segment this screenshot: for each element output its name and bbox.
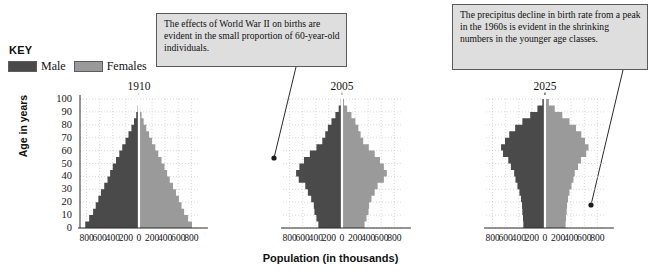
y-axis-tick-40: 40 bbox=[22, 171, 72, 181]
y-axis-tick-20: 20 bbox=[22, 197, 72, 207]
y-axis-tick-10: 10 bbox=[22, 210, 72, 220]
y-axis-tick-80: 80 bbox=[22, 120, 72, 130]
legend-label-male: Male bbox=[41, 59, 70, 74]
callout-world-war-2: The effects of World War II on births ar… bbox=[156, 13, 347, 67]
panel-year-label-1910: 1910 bbox=[114, 80, 164, 92]
x-axis-tick-1910-800: 800 bbox=[178, 232, 204, 243]
y-axis-tick-50: 50 bbox=[22, 159, 72, 169]
pyramid-panel-1910: 80060040020002004006008001910 bbox=[80, 93, 198, 268]
pyramid-area-2025-females bbox=[545, 93, 589, 228]
legend-label-females: Females bbox=[107, 59, 151, 74]
y-axis-tick-0: 0 bbox=[22, 223, 72, 233]
y-axis-tick-90: 90 bbox=[22, 107, 72, 117]
x-axis-tick-2005-800: 800 bbox=[381, 232, 407, 243]
legend-key: KEY Male Females bbox=[8, 44, 151, 74]
pyramid-area-1910-females bbox=[139, 93, 192, 228]
y-axis-tick-60: 60 bbox=[22, 146, 72, 156]
pyramid-plot-2005 bbox=[283, 93, 401, 230]
legend-items: Male Females bbox=[8, 59, 151, 74]
panel-year-label-2025: 2025 bbox=[520, 80, 570, 92]
callout-birth-rate-decline: The precipitus decline in birth rate fro… bbox=[452, 4, 648, 70]
pyramid-plot-1910 bbox=[80, 93, 198, 230]
pyramid-plot-2025 bbox=[486, 93, 604, 230]
legend-swatch-females bbox=[74, 61, 103, 72]
pyramid-area-1910-male bbox=[85, 93, 139, 228]
pyramid-panel-2005: 80060040020002004006008002005 bbox=[283, 93, 401, 268]
legend-swatch-male bbox=[8, 61, 37, 72]
y-axis-tick-70: 70 bbox=[22, 133, 72, 143]
pyramid-panel-2025: 80060040020002004006008002025 bbox=[486, 93, 604, 268]
x-axis-tick-2025-800: 800 bbox=[584, 232, 610, 243]
x-axis-title: Population (in thousands) bbox=[0, 252, 661, 264]
population-pyramid-figure: KEY Male Females The effects of World Wa… bbox=[0, 0, 661, 274]
legend-title: KEY bbox=[9, 44, 151, 56]
y-axis-tick-30: 30 bbox=[22, 184, 72, 194]
pyramid-area-2025-male bbox=[501, 93, 545, 228]
y-axis-tick-100: 100 bbox=[22, 94, 72, 104]
pyramid-area-2005-females bbox=[342, 93, 387, 228]
panel-year-label-2005: 2005 bbox=[317, 80, 367, 92]
